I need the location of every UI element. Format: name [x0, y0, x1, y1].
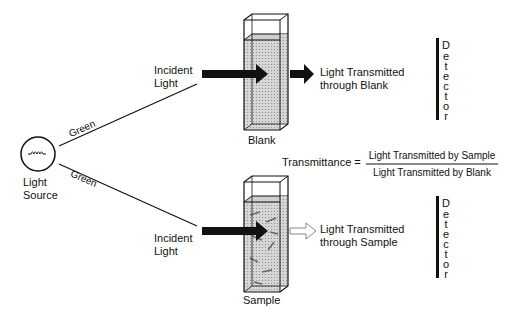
transmitted-sample-label: Light Transmitted through Sample: [320, 223, 404, 249]
equation-numerator: Light Transmitted by Sample: [366, 150, 498, 161]
transmitted-arrow-sample: [290, 223, 316, 239]
beam-top-line: [59, 84, 197, 146]
incident-light-label-sample: Incident Light: [154, 232, 193, 258]
equation-denominator: Light Transmitted by Blank: [366, 167, 498, 178]
detector-bar-top: [436, 38, 439, 120]
transmitted-blank-label: Light Transmitted through Blank: [320, 66, 404, 92]
light-source-icon: [21, 137, 55, 171]
sample-cuvette-label: Sample: [243, 294, 280, 307]
incident-arrow-blank: [202, 64, 268, 84]
incident-light-label-blank: Incident Light: [154, 64, 193, 90]
incident-arrow-sample: [202, 221, 268, 241]
transmitted-arrow-blank: [290, 64, 314, 84]
light-source-label: Light Source: [23, 176, 58, 202]
detector-bar-bottom: [436, 196, 439, 278]
blank-cuvette-label: Blank: [248, 134, 276, 147]
transmittance-label: Transmittance =: [282, 156, 361, 169]
